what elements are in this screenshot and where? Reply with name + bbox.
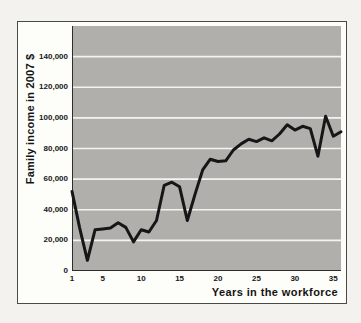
y-tick-label: 20,000 (18, 235, 68, 245)
x-tick-label: 35 (322, 274, 344, 284)
x-tick-label: 20 (207, 274, 229, 284)
x-tick-label: 30 (284, 274, 306, 284)
x-tick-label: 10 (130, 274, 152, 284)
y-axis-title: Family income in 2007 $ (24, 54, 36, 185)
chart-frame: 020,00040,00060,00080,000100,000120,0001… (17, 21, 347, 304)
x-axis-title: Years in the workforce (212, 286, 338, 298)
x-tick-label: 1 (61, 274, 83, 284)
x-tick-label: 25 (245, 274, 267, 284)
scanned-page: 020,00040,00060,00080,000100,000120,0001… (0, 0, 361, 323)
y-tick-label: 40,000 (18, 205, 68, 215)
x-tick-label: 15 (169, 274, 191, 284)
x-tick-label: 5 (92, 274, 114, 284)
plot-svg (18, 22, 346, 303)
